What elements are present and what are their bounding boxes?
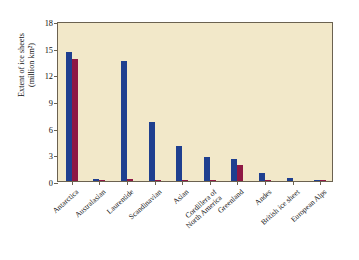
bar-andes-present (265, 180, 271, 181)
y-tick-mark (54, 50, 58, 51)
y-tick-label: 12 (45, 72, 53, 81)
bar-antarctica-present (72, 59, 78, 181)
y-tick-mark (54, 183, 58, 184)
x-tick-mark (127, 181, 128, 185)
x-tick-mark (237, 181, 238, 185)
bar-european-alps-present (320, 180, 326, 181)
x-tick-mark (320, 181, 321, 185)
y-tick-label: 0 (49, 179, 53, 188)
x-tick-mark (293, 181, 294, 185)
x-tick-label-line: Andes (254, 188, 274, 207)
x-tick-mark (99, 181, 100, 185)
y-axis-title: Extent of ice sheets (million km²) (17, 0, 37, 140)
y-tick-mark (54, 103, 58, 104)
x-tick-mark (210, 181, 211, 185)
bar-australasian-present (99, 180, 105, 181)
y-tick-label: 3 (49, 152, 53, 161)
bar-asian-lgm (176, 146, 182, 181)
x-tick-label-andes: Andes (254, 188, 274, 207)
y-tick-mark (54, 23, 58, 24)
y-tick-label: 9 (49, 99, 53, 108)
bar-greenland-present (237, 165, 243, 181)
y-tick-mark (54, 156, 58, 157)
x-tick-mark (72, 181, 73, 185)
x-tick-mark (265, 181, 266, 185)
bar-scandinavian-present (155, 180, 161, 181)
y-tick-mark (54, 130, 58, 131)
chart-figure: Glaciated Areas Extent of ice sheets (mi… (0, 0, 359, 260)
y-tick-label: 15 (45, 45, 53, 54)
plot-area: 0369121518 (57, 22, 333, 182)
bar-asian-present (182, 180, 188, 181)
x-tick-mark (155, 181, 156, 185)
bar-laurentide-present (127, 179, 133, 181)
bar-cordillera-of-north-america-present (210, 180, 216, 181)
y-tick-label: 18 (45, 19, 53, 28)
y-tick-label: 6 (49, 125, 53, 134)
x-tick-label-line: Asian (172, 188, 191, 206)
bar-cordillera-of-north-america-lgm (204, 157, 210, 181)
x-tick-mark (182, 181, 183, 185)
x-tick-label-asian: Asian (172, 188, 191, 206)
bar-british-ice-sheet-lgm (287, 178, 293, 181)
y-tick-mark (54, 76, 58, 77)
bar-laurentide-lgm (121, 61, 127, 181)
y-axis-title-line1: Extent of ice sheets (17, 33, 26, 97)
bar-scandinavian-lgm (149, 122, 155, 181)
y-axis-title-line2: (million km²) (27, 0, 37, 140)
